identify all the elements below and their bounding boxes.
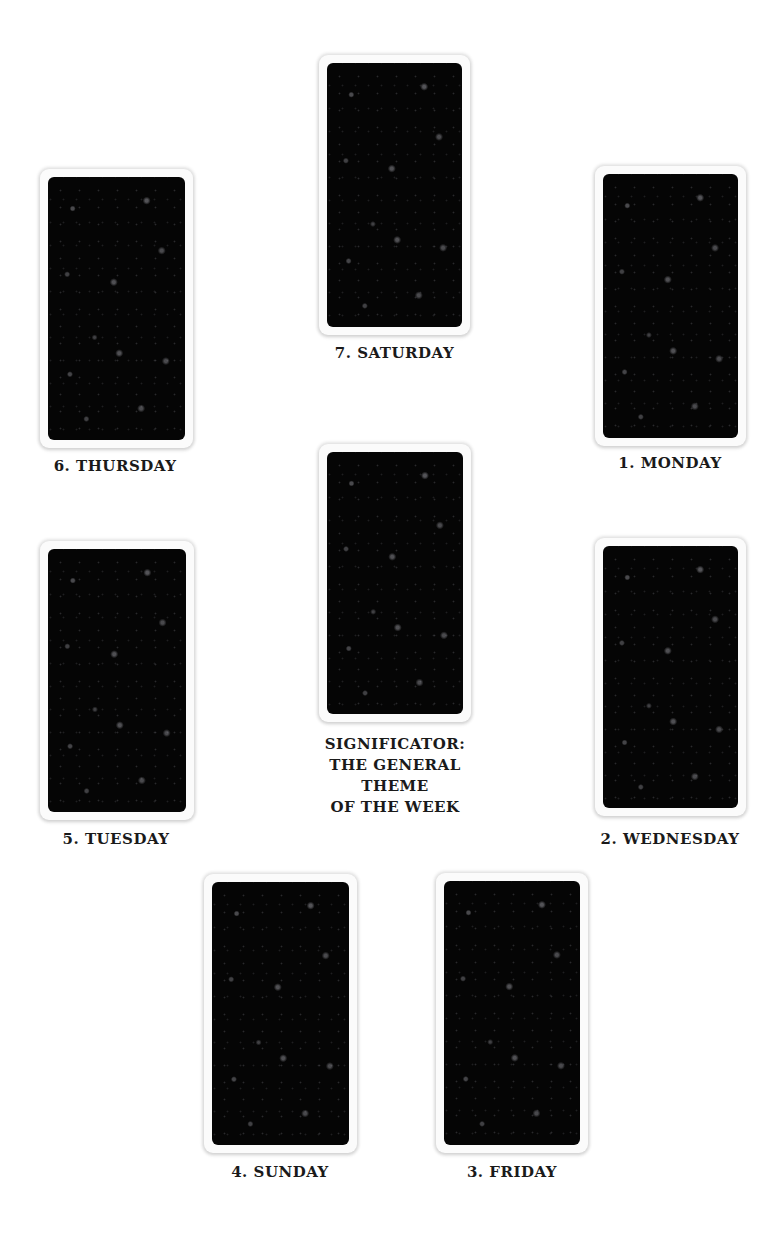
card-label-saturday: 7. SATURDAY — [319, 344, 470, 363]
card-label-wednesday: 2. WEDNESDAY — [585, 830, 755, 849]
card-saturday[interactable] — [319, 55, 470, 335]
card-back-starfield — [327, 63, 462, 327]
card-significator[interactable] — [319, 444, 471, 722]
card-back-starfield — [48, 549, 186, 812]
card-friday[interactable] — [436, 873, 588, 1153]
card-label-sunday: 4. SUNDAY — [195, 1163, 365, 1182]
card-label-monday: 1. MONDAY — [585, 454, 755, 473]
card-sunday[interactable] — [204, 874, 357, 1153]
card-label-significator: SIGNIFICATOR: THE GENERAL THEME OF THE W… — [294, 734, 496, 818]
card-label-friday: 3. FRIDAY — [427, 1163, 597, 1182]
card-thursday[interactable] — [40, 169, 193, 448]
card-monday[interactable] — [595, 166, 746, 446]
card-back-starfield — [327, 452, 463, 714]
card-back-starfield — [603, 174, 738, 438]
card-label-thursday: 6. THURSDAY — [30, 457, 200, 476]
significator-label-line-1: SIGNIFICATOR: — [294, 734, 496, 755]
card-back-starfield — [444, 881, 580, 1145]
card-label-tuesday: 5. TUESDAY — [30, 830, 202, 849]
card-back-starfield — [603, 546, 738, 808]
significator-label-line-3: OF THE WEEK — [294, 797, 496, 818]
significator-label-line-2: THE GENERAL THEME — [294, 755, 496, 797]
card-back-starfield — [48, 177, 185, 440]
card-wednesday[interactable] — [595, 538, 746, 816]
card-back-starfield — [212, 882, 349, 1145]
card-tuesday[interactable] — [40, 541, 194, 820]
